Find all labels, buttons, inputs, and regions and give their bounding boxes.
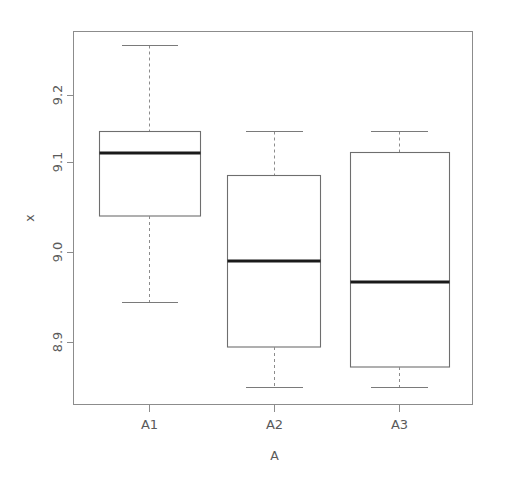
box-a3 [351,153,450,368]
x-tick-label-a1: A1 [141,417,158,432]
x-tick-label-a2: A2 [266,417,283,432]
boxplot-canvas: 9.2 9.1 9.0 8.9 x A1 A2 A3 A [0,0,506,489]
x-tick-label-a3: A3 [391,417,408,432]
y-axis-ticks [67,96,73,343]
boxplot-figure: 9.2 9.1 9.0 8.9 x A1 A2 A3 A [0,0,506,489]
x-axis-title: A [270,448,279,463]
y-axis-tick-labels: 9.2 9.1 9.0 8.9 [50,85,65,353]
x-axis-ticks [150,405,400,412]
box-group-a1 [100,46,201,303]
box-group-a2 [228,132,321,388]
y-tick-label-9-2: 9.2 [50,85,65,106]
y-tick-label-8-9: 8.9 [50,332,65,353]
y-tick-label-9-0: 9.0 [50,242,65,263]
x-axis-tick-labels: A1 A2 A3 [141,417,408,432]
y-tick-label-9-1: 9.1 [50,152,65,173]
box-group-a3 [351,132,450,388]
box-a1 [100,132,201,217]
y-axis-title: x [22,214,37,221]
